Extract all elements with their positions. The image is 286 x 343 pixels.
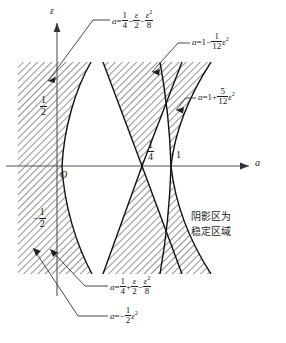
stability-chart-figure: ε a O 1 4 1 1 2 − 1 2 a= 1 4 − ε 2 − ε	[0, 0, 286, 343]
formula-top-left-t3-den: 8	[145, 20, 154, 30]
formula-top-right: a=1− 1 12 ε2	[192, 32, 229, 52]
formula-bottom-left-t3-den: 8	[143, 286, 152, 296]
stable-region-note: 阴影区为 稳定区域	[191, 210, 231, 239]
y-tick-half-den: 2	[40, 106, 47, 118]
formula-mid-right-t1-num: 5	[217, 87, 228, 96]
formula-parabola-var-sup: 2	[135, 310, 138, 316]
x-axis-arrow	[240, 163, 249, 170]
x-tick-quarter-den: 4	[147, 151, 154, 163]
formula-bottom-left-t1-num: 1	[120, 277, 127, 286]
formula-bottom-left-t1-den: 4	[120, 286, 127, 296]
region-left-outer	[18, 62, 92, 274]
formula-top-left-t2-num: ε	[133, 11, 140, 20]
formula-bottom-left: a= 1 4 + ε 2 − ε2 8	[110, 275, 151, 297]
formula-top-left: a= 1 4 − ε 2 − ε2 8	[112, 9, 153, 31]
formula-top-right-var-sup: 2	[226, 36, 229, 42]
x-tick-quarter: 1 4	[147, 140, 154, 162]
origin-label: O	[60, 170, 67, 180]
y-tick-half-num: 1	[40, 95, 47, 106]
formula-mid-right: a=1+ 5 12 ε2	[198, 87, 235, 107]
formula-top-right-t1-den: 12	[211, 41, 222, 51]
x-axis-label: a	[255, 158, 260, 168]
formula-parabola: a=− 1 2 ε2	[110, 306, 138, 326]
formula-bottom-left-t2-num: ε	[131, 277, 138, 286]
formula-bottom-left-t2-den: 2	[131, 286, 138, 296]
y-tick-half: 1 2	[40, 95, 47, 117]
y-axis-arrow	[54, 23, 61, 32]
formula-top-left-t3-sup: 2	[149, 9, 152, 15]
stable-region-note-line2: 稳定区域	[191, 225, 231, 240]
formula-mid-right-var-sup: 2	[232, 91, 235, 97]
formula-bottom-left-t3-sup: 2	[147, 275, 150, 281]
y-tick-neg-half-den: 2	[39, 218, 46, 230]
x-tick-one: 1	[176, 150, 181, 160]
y-tick-neg-half-num: 1	[39, 207, 46, 218]
stable-region-note-line1: 阴影区为	[191, 210, 231, 225]
formula-mid-right-t1-den: 12	[217, 96, 228, 106]
formula-parabola-t1-num: 1	[125, 306, 132, 315]
formula-top-left-t1-den: 4	[122, 20, 129, 30]
formula-top-left-t2-den: 2	[133, 20, 140, 30]
y-axis-label: ε	[50, 6, 54, 16]
formula-top-right-t1-num: 1	[211, 32, 222, 41]
formula-top-left-t1-num: 1	[122, 11, 129, 20]
y-tick-neg-half: − 1 2	[33, 207, 46, 229]
formula-parabola-t1-den: 2	[125, 315, 132, 325]
x-tick-quarter-num: 1	[147, 140, 154, 151]
